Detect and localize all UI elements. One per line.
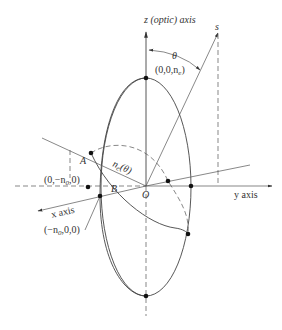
origin-label: O [142, 189, 149, 200]
bottom-point [144, 294, 149, 299]
section-ellipse-back [91, 145, 188, 234]
x-neg-point-label: (−n0,0,0) [44, 224, 80, 237]
point-a-label: A [79, 155, 87, 166]
y-neg-point-label: (0,−n0,0) [44, 174, 80, 187]
lower-right-dot [186, 232, 191, 237]
index-ellipsoid-diagram: z (optic) axis s θ (0,0,ne) A ne(θ) (0,−… [0, 0, 282, 330]
section-ellipse-front [91, 153, 188, 234]
x-axis-back [146, 165, 250, 186]
y-neg-dot [86, 185, 91, 190]
top-point [144, 76, 149, 81]
y-axis-label: y axis [234, 189, 258, 200]
point-b-label: B [111, 183, 117, 194]
point-a-dot [89, 151, 94, 156]
ellipse-inner-left [100, 78, 146, 296]
x-pos-dot [166, 179, 171, 184]
s-label: s [215, 21, 219, 32]
y-pos-dot [189, 184, 194, 189]
z-axis-label: z (optic) axis [143, 14, 196, 26]
x-neg-dot [98, 194, 103, 199]
x-neg-leader [85, 196, 100, 230]
top-point-label: (0,0,ne) [155, 64, 185, 77]
x-axis-label: x axis [50, 204, 76, 220]
theta-label: θ [172, 50, 177, 61]
